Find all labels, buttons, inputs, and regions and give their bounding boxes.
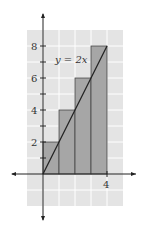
y-axis-arrow-up-icon [41,13,45,18]
y-tick-label-6: 6 [31,73,37,84]
y-axis-arrow-down-icon [41,216,45,221]
y-tick-label-8: 8 [31,41,37,52]
x-tick-label-4: 4 [103,179,109,190]
x-axis-arrow-right-icon [131,172,136,176]
y-tick-label-2: 2 [31,137,37,148]
equation-label: y = 2x [54,54,88,65]
rectangle-2 [59,110,75,174]
rectangle-4 [91,46,107,174]
y-tick-label-4: 4 [31,105,37,116]
riemann-sum-figure: 2 4 6 8 4 y = 2x [0,0,149,232]
graph: 2 4 6 8 4 y = 2x [0,0,149,232]
rectangle-3 [75,78,91,174]
x-axis-arrow-left-icon [11,172,16,176]
